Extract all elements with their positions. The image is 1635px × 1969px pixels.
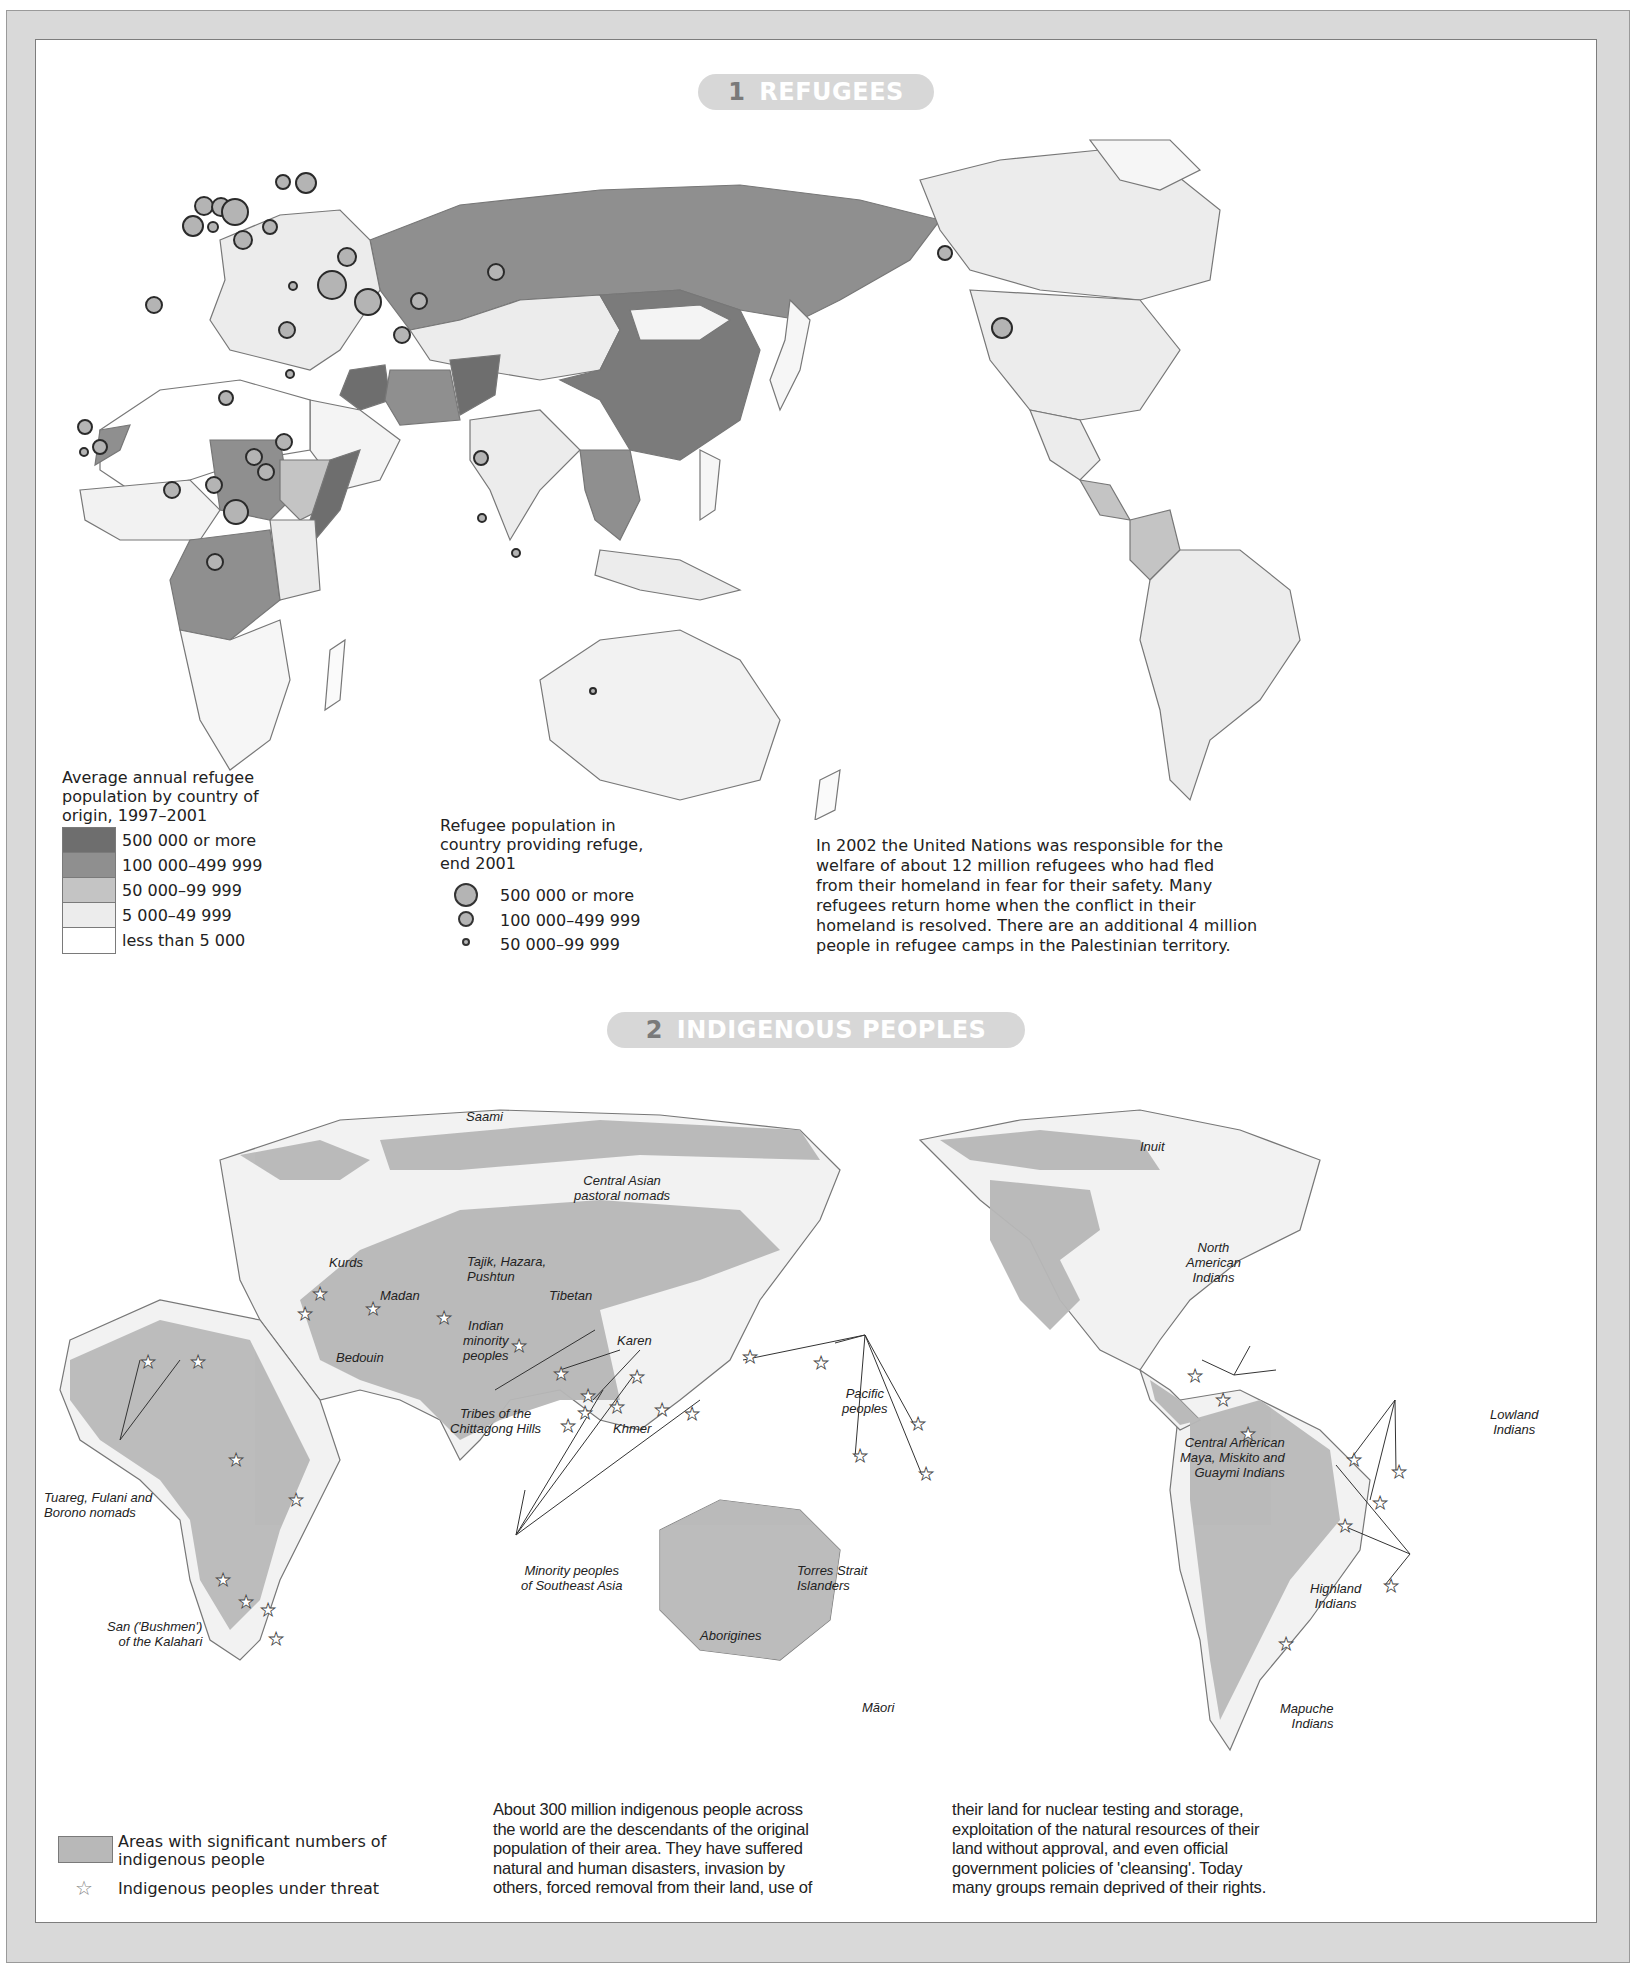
- label-tuareg: Tuareg, Fulani and Borono nomads: [44, 1490, 152, 1520]
- host-legend-title: Refugee population in country providing …: [440, 816, 700, 873]
- label-karen: Karen: [617, 1333, 652, 1348]
- origin-legend-label: 500 000 or more: [122, 831, 256, 850]
- label-central-asian: Central Asian pastoral nomads: [574, 1173, 670, 1203]
- label-inuit: Inuit: [1140, 1139, 1165, 1154]
- svg-text:★: ★: [1278, 1634, 1294, 1654]
- svg-text:★: ★: [1337, 1516, 1353, 1536]
- bubble-icon-large: [454, 883, 478, 907]
- indigenous-area-label: Areas with significant numbers of indige…: [118, 1833, 386, 1869]
- label-madan: Madan: [380, 1288, 420, 1303]
- south-america-region: [1140, 550, 1300, 800]
- svg-text:★: ★: [190, 1352, 206, 1372]
- svg-text:★: ★: [228, 1450, 244, 1470]
- usa-region: [970, 290, 1180, 420]
- origin-legend-label: less than 5 000: [122, 931, 245, 950]
- central-america-region: [1080, 480, 1130, 520]
- origin-legend-swatches: [62, 827, 116, 954]
- svg-text:★: ★: [365, 1299, 381, 1319]
- label-mapuche: Mapuche Indians: [1280, 1701, 1333, 1731]
- svg-text:★: ★: [918, 1464, 934, 1484]
- mexico-region: [1030, 410, 1100, 480]
- label-lowland: Lowland Indians: [1490, 1407, 1538, 1437]
- section-title-indigenous: 2 INDIGENOUS PEOPLES: [607, 1012, 1025, 1048]
- svg-text:★: ★: [260, 1600, 276, 1620]
- swatch-under-5k: [63, 928, 115, 953]
- label-highland: Highland Indians: [1310, 1581, 1361, 1611]
- section-title-refugees: 1 REFUGEES: [698, 74, 934, 110]
- australia-region: [540, 630, 780, 800]
- refugees-description: In 2002 the United Nations was responsib…: [816, 836, 1316, 956]
- congo-region: [170, 530, 280, 640]
- svg-text:★: ★: [1215, 1390, 1231, 1410]
- swatch-50k-99k: [63, 878, 115, 903]
- svg-text:★: ★: [553, 1364, 569, 1384]
- southeast-asia-region: [580, 450, 640, 540]
- svg-text:★: ★: [654, 1400, 670, 1420]
- svg-text:★: ★: [684, 1404, 700, 1424]
- label-maori: Māori: [862, 1700, 895, 1715]
- label-tribes-chittagong: Tribes of the Chittagong Hills: [450, 1406, 541, 1436]
- label-indian-minority: Indian minority peoples: [463, 1318, 509, 1363]
- svg-text:★: ★: [577, 1403, 593, 1423]
- indigenous-description-col1: About 300 million indigenous people acro…: [493, 1800, 913, 1898]
- indigenous-threat-label: Indigenous peoples under threat: [118, 1879, 379, 1898]
- new-zealand-region: [815, 770, 840, 820]
- svg-text:★: ★: [629, 1367, 645, 1387]
- origin-legend-label: 50 000–99 999: [122, 881, 242, 900]
- label-aborigines: Aborigines: [700, 1628, 761, 1643]
- host-legend-label: 100 000–499 999: [500, 911, 640, 930]
- svg-text:★: ★: [268, 1629, 284, 1649]
- label-minority-sea: Minority peoples of Southeast Asia: [521, 1563, 622, 1593]
- label-tajik: Tajik, Hazara, Pushtun: [467, 1254, 546, 1284]
- label-pacific: Pacific peoples: [842, 1386, 888, 1416]
- swatch-100k-499k: [63, 853, 115, 878]
- svg-text:★: ★: [560, 1416, 576, 1436]
- label-central-american: Central American Maya, Miskito and Guaym…: [1180, 1435, 1285, 1480]
- southern-africa-region: [180, 620, 290, 770]
- svg-text:★: ★: [297, 1304, 313, 1324]
- bubble-icon-small: [462, 938, 470, 946]
- label-bedouin: Bedouin: [336, 1350, 384, 1365]
- label-torres: Torres Strait Islanders: [797, 1563, 867, 1593]
- host-legend-label: 50 000–99 999: [500, 935, 620, 954]
- section-title: INDIGENOUS PEOPLES: [677, 1016, 987, 1044]
- indonesia-region: [595, 550, 740, 600]
- indigenous-area-swatch: [58, 1836, 113, 1863]
- iran-region: [385, 370, 460, 425]
- origin-legend-title: Average annual refugee population by cou…: [62, 768, 322, 825]
- section-number: 1: [728, 78, 745, 106]
- swatch-5k-49k: [63, 903, 115, 928]
- label-north-american: North American Indians: [1186, 1240, 1241, 1285]
- svg-text:★: ★: [1391, 1462, 1407, 1482]
- swatch-500k-plus: [63, 828, 115, 853]
- svg-text:★: ★: [312, 1284, 328, 1304]
- svg-text:★: ★: [742, 1347, 758, 1367]
- svg-text:★: ★: [1372, 1493, 1388, 1513]
- philippines-region: [700, 450, 720, 520]
- svg-text:★: ★: [609, 1397, 625, 1417]
- indigenous-description-col2: their land for nuclear testing and stora…: [952, 1800, 1372, 1898]
- svg-text:★: ★: [813, 1353, 829, 1373]
- indigenous-world-map: ★★ ★★ ★★★ ★ ★★★ ★★★ ★ ★★★ ★★★ ★★ ★★★ ★★ …: [40, 1100, 1600, 1820]
- section-title: REFUGEES: [759, 78, 904, 106]
- host-legend-label: 500 000 or more: [500, 886, 634, 905]
- india-region: [470, 410, 580, 540]
- west-africa-region: [80, 480, 220, 540]
- svg-text:★: ★: [140, 1352, 156, 1372]
- refugees-world-map: [40, 120, 1600, 820]
- label-san: San ('Bushmen') of the Kalahari: [107, 1619, 202, 1649]
- section-number: 2: [646, 1016, 663, 1044]
- svg-text:★: ★: [1187, 1366, 1203, 1386]
- svg-text:★: ★: [852, 1446, 868, 1466]
- origin-legend-label: 5 000–49 999: [122, 906, 232, 925]
- iraq-region: [340, 365, 390, 410]
- svg-text:★: ★: [910, 1414, 926, 1434]
- svg-text:★: ★: [215, 1570, 231, 1590]
- svg-text:★: ★: [1383, 1576, 1399, 1596]
- svg-text:★: ★: [288, 1490, 304, 1510]
- label-tibetan: Tibetan: [549, 1288, 592, 1303]
- label-saami: Saami: [466, 1109, 503, 1124]
- label-kurds: Kurds: [329, 1255, 363, 1270]
- svg-text:★: ★: [511, 1336, 527, 1356]
- svg-text:★: ★: [1346, 1450, 1362, 1470]
